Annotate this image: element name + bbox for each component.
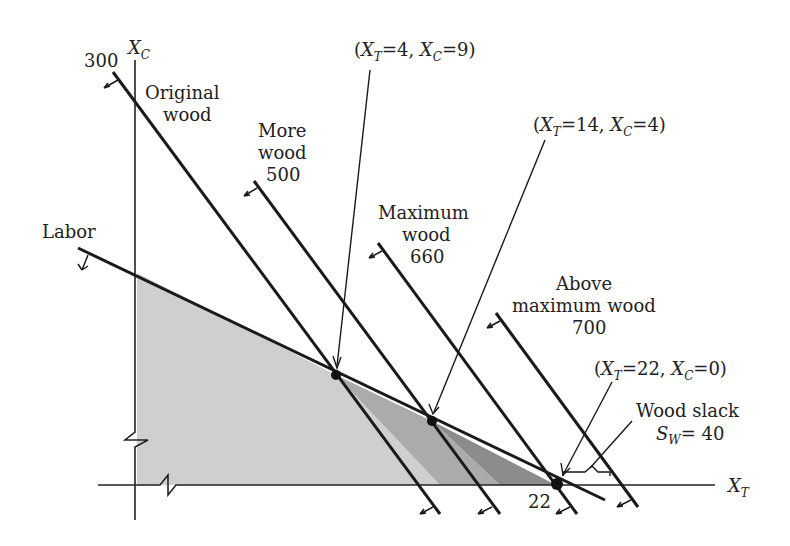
point-label-4-9: (XT=4, XC=9) xyxy=(354,39,475,64)
more-wood-arrow-icon xyxy=(244,188,257,196)
original-wood-arrow-bottom-icon xyxy=(420,507,433,514)
original-wood-label-1: Original xyxy=(145,82,220,103)
point-label-14-4: (XT=14, XC=4) xyxy=(533,114,666,139)
above-max-wood-value: 700 xyxy=(572,317,606,338)
corner-point-22-0 xyxy=(551,478,563,490)
callout-p1-line xyxy=(337,70,370,366)
corner-point-14-4 xyxy=(427,416,437,426)
lp-diagram: 300 XC XT 22 Labor Original wood More wo… xyxy=(0,0,790,546)
x-intercept-label: 22 xyxy=(528,491,551,512)
max-wood-label-2: wood xyxy=(402,224,451,245)
maximum-wood-arrow-icon xyxy=(369,251,382,258)
above-max-wood-arrow-icon xyxy=(487,321,500,328)
above-max-wood-arrow-bottom-icon xyxy=(617,500,631,507)
max-wood-value: 660 xyxy=(410,246,444,267)
y-intercept-label: 300 xyxy=(84,50,118,71)
labor-arrow-icon xyxy=(78,255,88,270)
more-wood-label-1: More xyxy=(258,120,307,141)
y-axis-label: XC xyxy=(126,37,150,62)
maximum-wood-arrow-bottom-icon xyxy=(556,507,570,514)
point-label-22-0: (XT=22, XC=0) xyxy=(594,358,727,383)
callout-p2-arrow-icon xyxy=(429,404,439,414)
original-wood-label-2: wood xyxy=(163,104,212,125)
slack-bracket-icon xyxy=(563,466,610,476)
labor-label: Labor xyxy=(42,221,96,242)
x-axis-label: XT xyxy=(726,475,750,500)
above-max-wood-label-1: Above xyxy=(555,273,612,294)
max-wood-label-1: Maximum xyxy=(378,202,469,223)
slack-callout-line xyxy=(590,421,632,468)
more-wood-value: 500 xyxy=(266,164,300,185)
wood-slack-value: SW= 40 xyxy=(656,423,724,447)
original-wood-arrow-icon xyxy=(104,80,118,88)
corner-point-4-9 xyxy=(331,370,341,380)
more-wood-label-2: wood xyxy=(258,142,307,163)
callout-p2-line xyxy=(434,140,545,412)
above-max-wood-label-2: maximum wood xyxy=(512,295,656,316)
wood-slack-label: Wood slack xyxy=(636,400,740,421)
more-wood-arrow-bottom-icon xyxy=(478,507,492,514)
